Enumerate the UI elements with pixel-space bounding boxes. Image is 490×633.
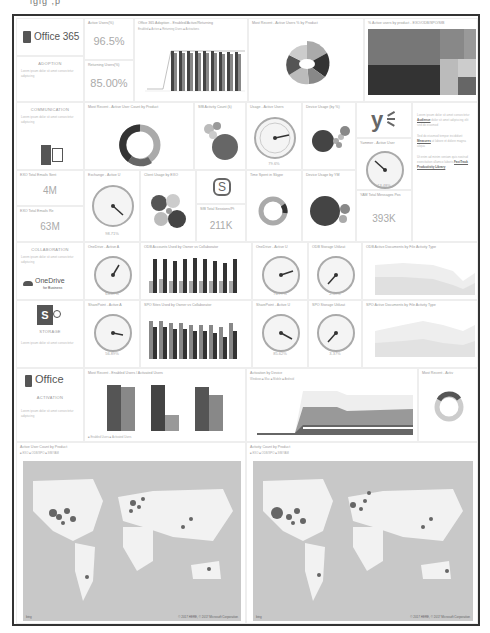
spo-storage-gauge-tile[interactable]: SPO Storage Utilizat 3.37% [308, 300, 362, 368]
gauge-chart [309, 309, 362, 355]
odb-accounts-chart[interactable]: ODB Accounts Used by Owner vs Collaborat… [140, 242, 252, 300]
section-label: COMMUNICATION [17, 107, 83, 112]
active-users-pie-chart[interactable]: Most Recent - Active Users % by Product [248, 18, 364, 102]
bing-logo: bing [256, 615, 262, 619]
page-header-clip: igig ,p [30, 0, 61, 6]
section-desc: Lorem ipsum dolor sit amet consectetur a… [17, 409, 83, 419]
bar-chart [141, 251, 252, 300]
odb-active-gauge-tile[interactable]: OneDrive - Active U 76.77% [252, 242, 308, 300]
skype-icon: S [213, 178, 231, 196]
bubble-chart [195, 111, 246, 169]
yammer-messages-tile[interactable]: YAM Total Messages Pos 393K [356, 190, 412, 242]
gauge-value: 2.59% [309, 291, 361, 296]
enabled-bar-chart [135, 31, 248, 101]
office-icon [23, 31, 31, 43]
chart-title: SPO Storage Utilizat [309, 301, 361, 309]
sfb-sessions-tile[interactable]: SfB Total Sessions/Pt 211K [196, 204, 246, 242]
map-legend: ■ EXO ■ ODB/SPO ■ SfB/YAM [247, 451, 477, 455]
audience-link[interactable]: Audience [417, 118, 431, 122]
bubble-chart [303, 179, 356, 239]
dashboard-frame: Office 365 ADOPTION Lorem ipsum dolor si… [12, 14, 480, 626]
tile-title: SfB Total Sessions/Pt [197, 205, 245, 213]
office365-logo-text: Office 365 [34, 31, 79, 42]
client-usage-tile[interactable]: Client Usage by EXO [140, 170, 196, 242]
world-map[interactable]: bing © 2017 HERE, © 2017 Microsoft Corpo… [253, 461, 473, 621]
sfb-activity-tile[interactable]: SfB Activity Count (k) [194, 102, 246, 170]
note-text: Lorem ipsum dolor sit amet consectetur [417, 113, 470, 117]
onedrive-logo-text: OneDrive [35, 277, 65, 284]
world-map[interactable]: bing © 2017 HERE, © 2017 Microsoft Corpo… [23, 461, 241, 621]
usage-gauge-tile[interactable]: Usage - Active Users 79.6% [246, 102, 302, 170]
active-user-map-tile[interactable]: Active User Count by Product ■ EXO ■ ODB… [16, 442, 246, 624]
device-usage-yammer-tile[interactable]: Device Usage by YM [302, 170, 356, 242]
gauge-chart [253, 309, 308, 355]
collaboration-section: COLLABORATION Lorem ipsum dolor sit amet… [16, 242, 84, 300]
yammer-gauge-tile[interactable]: Yammer - Active User 13.48% [356, 138, 412, 190]
active-users-tile[interactable]: Active Users(%) 96.5% [84, 18, 134, 60]
sharepoint-icon: S [37, 305, 53, 325]
chart-legend: ■ Enabled Users ■ Activated Users [85, 435, 245, 439]
chart-title: ODB Storage Utilizat [309, 243, 361, 251]
yammer-icon: y [371, 107, 383, 133]
section-desc: Lorem ipsum dolor sit amet consectetur a… [17, 115, 83, 125]
treemap-tile[interactable]: % Active users by product - EXO/ODB/SPO/… [364, 18, 478, 102]
section-desc: Lorem ipsum dolor sit amet consectetur a… [17, 255, 83, 265]
section-desc: Lorem ipsum dolor sit amet consectetur [17, 341, 78, 346]
time-spent-tile[interactable]: Time Spent in Skype [246, 170, 302, 242]
most-recent-activ-tile[interactable]: Most Recent - Activ [418, 368, 478, 442]
enabled-active-chart[interactable]: Office 365 Adoption - Enabled/Active/Ret… [134, 18, 248, 102]
onedrive-cloud-icon [23, 281, 33, 286]
gauge-value: 85.62% [253, 351, 307, 356]
chart-title: SPO Sites Used by Owner vs Collaborator [141, 301, 251, 309]
kpi-value: 393K [357, 213, 411, 224]
chart-title: OneDrive - Active U [253, 243, 307, 251]
exchange-gauge-tile[interactable]: Exchange - Active U 98.71% [84, 170, 140, 242]
activation-device-chart[interactable]: Activation by Device Windows ■ Mac ■ Mob… [246, 368, 418, 442]
active-user-count-donut[interactable]: Most Recent - Active User Count by Produ… [84, 102, 194, 170]
tile-title: EXO Total Emails Sent [17, 171, 83, 179]
tile-title: Active Users(%) [85, 19, 133, 27]
measures-link[interactable]: Measures [417, 139, 431, 143]
emails-received-tile[interactable]: EXO Total Emails Re 63M [16, 206, 84, 242]
chart-title: Office 365 Adoption - Enabled/Active/Ret… [135, 19, 247, 27]
chart-title: SfB Activity Count (k) [195, 103, 245, 111]
chart-title: Device Usage by YM [303, 171, 355, 179]
returning-users-tile[interactable]: Returning Users(%) 85.00% [84, 60, 134, 102]
chart-title: Most Recent - Active Users % by Product [249, 19, 363, 27]
bubble-chart [303, 111, 356, 169]
chart-title: Yammer - Active User [357, 139, 411, 147]
area-chart [247, 381, 418, 441]
chart-title: % Active users by product - EXO/ODB/SPO/… [365, 19, 477, 27]
chart-title: Time Spent in Skype [247, 171, 301, 179]
device-usage-tile[interactable]: Device Usage (by %) [302, 102, 356, 170]
map-legend: ■ EXO ■ ODB/SPO ■ SfB/YAM [17, 451, 245, 455]
office365-logo-tile: Office 365 [16, 18, 84, 56]
gauge-value: 98.71% [85, 231, 139, 236]
spo-sites-chart[interactable]: SPO Sites Used by Owner vs Collaborator [140, 300, 252, 368]
sharepoint-active-gauge-tile[interactable]: SharePoint - Active U 85.62% [252, 300, 308, 368]
odb-docs-area-chart[interactable]: ODB Active Documents by File Activity Ty… [362, 242, 478, 300]
office-icon [25, 375, 32, 387]
section-label: COLLABORATION [17, 247, 83, 252]
gauge-value: 79.6% [247, 161, 301, 166]
emails-sent-tile[interactable]: EXO Total Emails Sent 4M [16, 170, 84, 206]
sharepoint-gauge-tile[interactable]: SharePoint - Active A 56.89% [84, 300, 140, 368]
yammer-logo-tile: y [356, 102, 412, 138]
area-chart [363, 309, 478, 367]
spo-docs-area-chart[interactable]: SPO Active Documents by File Activity Ty… [362, 300, 478, 368]
chart-title: Most Recent - Activ [419, 369, 477, 377]
bar-chart [85, 377, 246, 435]
enabled-activated-chart[interactable]: Most Recent - Enabled Users / Activated … [84, 368, 246, 442]
odb-storage-gauge-tile[interactable]: ODB Storage Utilizat 2.59% [308, 242, 362, 300]
gauge-value: 56.89% [85, 351, 139, 356]
adoption-section: ADOPTION Lorem ipsum dolor sit amet cons… [16, 56, 84, 102]
activity-count-map-tile[interactable]: Activity Count by Product ■ EXO ■ ODB/SP… [246, 442, 478, 624]
onedrive-gauge-tile[interactable]: OneDrive - Active A 63.87% [84, 242, 140, 300]
bing-logo: bing [26, 615, 32, 619]
chart-title: SharePoint - Active U [253, 301, 307, 309]
chart-title: Client Usage by EXO [141, 171, 195, 179]
chart-title: Most Recent - Active User Count by Produ… [85, 103, 193, 111]
bar-chart [141, 309, 252, 367]
chart-title: Active User Count by Product [17, 443, 245, 451]
section-label: STORAGE [17, 329, 83, 334]
